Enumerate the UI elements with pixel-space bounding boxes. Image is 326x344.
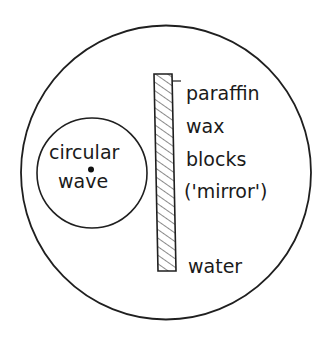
source-label-line2: wave bbox=[58, 170, 108, 192]
diagram-canvas: circular wave paraffin wax blocks ('mirr… bbox=[0, 0, 326, 344]
barrier-label-line2: wax bbox=[186, 115, 224, 137]
barrier-label-line3: blocks bbox=[186, 148, 246, 170]
barrier-label-line4: ('mirror') bbox=[184, 180, 267, 202]
water-label: water bbox=[188, 255, 242, 277]
barrier-label-line1: paraffin bbox=[186, 82, 260, 104]
paraffin-wax-barrier bbox=[154, 74, 176, 271]
source-label-line1: circular bbox=[49, 141, 120, 163]
ripple-tank-diagram: circular wave paraffin wax blocks ('mirr… bbox=[0, 0, 326, 344]
